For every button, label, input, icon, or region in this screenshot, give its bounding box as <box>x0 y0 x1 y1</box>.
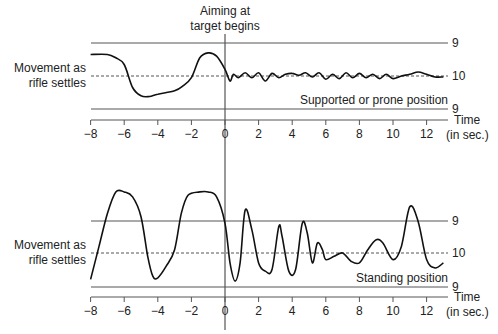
tick-label: 8 <box>356 304 363 318</box>
time-axis-ticks: −8−6−4−2024681012 <box>84 297 434 318</box>
ylabel-line-2: rifle settles <box>29 76 86 90</box>
rifle-movement-chart: Aiming at target begins −8−6−4−202468101… <box>0 0 498 334</box>
tick-label: 12 <box>420 304 434 318</box>
tick-label: −4 <box>151 304 165 318</box>
position-label: Supported or prone position <box>300 93 448 107</box>
time-label-1: Time <box>454 113 481 127</box>
tick-label: 12 <box>420 127 434 141</box>
tick-label: 0 <box>222 304 229 318</box>
tick-label: −6 <box>117 127 131 141</box>
time-label-1: Time <box>454 290 481 304</box>
ref-label-center: 10 <box>452 246 466 260</box>
ylabel-line-2: rifle settles <box>29 253 86 267</box>
time-label-2: (in sec.) <box>446 305 489 319</box>
tick-label: 8 <box>356 127 363 141</box>
annotation-line-2: target begins <box>190 19 259 33</box>
ref-label-upper: 9 <box>452 36 459 50</box>
tick-label: 4 <box>289 304 296 318</box>
tick-label: −4 <box>151 127 165 141</box>
tick-label: 2 <box>255 304 262 318</box>
ref-label-center: 10 <box>452 69 466 83</box>
position-label: Standing position <box>356 271 448 285</box>
time-axis-ticks: −8−6−4−2024681012 <box>84 120 434 141</box>
tick-label: −2 <box>185 304 199 318</box>
tick-label: 2 <box>255 127 262 141</box>
tick-label: −6 <box>117 304 131 318</box>
annotation-line-1: Aiming at <box>200 4 251 18</box>
panel-standing: −8−6−4−2024681012 Movement as rifle sett… <box>14 190 489 319</box>
tick-label: 4 <box>289 127 296 141</box>
supported-movement-curve <box>91 53 444 97</box>
tick-label: 0 <box>222 127 229 141</box>
ylabel-line-1: Movement as <box>14 238 86 252</box>
ylabel-line-1: Movement as <box>14 61 86 75</box>
tick-label: 6 <box>322 127 329 141</box>
tick-label: 6 <box>322 304 329 318</box>
tick-label: 10 <box>386 304 400 318</box>
tick-label: −8 <box>84 127 98 141</box>
standing-movement-curve <box>91 190 444 281</box>
time-label-2: (in sec.) <box>446 128 489 142</box>
panel-supported: −8−6−4−2024681012 Movement as rifle sett… <box>14 36 489 142</box>
ref-label-upper: 9 <box>452 214 459 228</box>
tick-label: −8 <box>84 304 98 318</box>
tick-label: −2 <box>185 127 199 141</box>
tick-label: 10 <box>386 127 400 141</box>
